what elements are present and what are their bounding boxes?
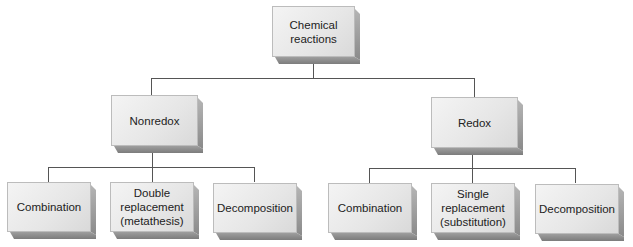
node-label: Combination <box>17 200 82 214</box>
node-redox: Redox <box>431 97 523 155</box>
node-label: Decomposition <box>217 201 293 215</box>
connector-root-down <box>313 63 314 79</box>
node-redox-combination: Combination <box>328 183 417 240</box>
connector-to-nonredox-decomposition <box>254 167 255 182</box>
connector-to-redox <box>474 78 475 97</box>
connector-to-single-replacement <box>472 168 473 183</box>
connector-to-redox-decomposition <box>575 168 576 183</box>
node-nonredox-decomposition: Decomposition <box>213 183 302 240</box>
node-chemical-reactions: Chemical reactions <box>272 6 360 64</box>
node-label: Nonredox <box>130 114 180 128</box>
node-single-replacement: Single replacement (substitution) <box>431 183 520 240</box>
connector-to-redox-combination <box>369 168 370 183</box>
node-label: Combination <box>338 201 403 215</box>
node-double-replacement: Double replacement (metathesis) <box>110 182 199 239</box>
node-label: Decomposition <box>539 202 615 216</box>
connector-to-double-replacement <box>152 167 153 182</box>
connector-nonredox-down <box>152 151 153 168</box>
node-redox-decomposition: Decomposition <box>535 184 624 241</box>
node-nonredox: Nonredox <box>111 95 203 153</box>
connector-to-nonredox <box>151 78 152 95</box>
node-label: Redox <box>458 116 491 130</box>
node-label: Single replacement (substitution) <box>440 187 506 229</box>
connector-redox-down <box>472 153 473 169</box>
node-label: Chemical reactions <box>290 18 338 46</box>
node-label: Double replacement (metathesis) <box>120 186 183 228</box>
connector-level1-horizontal <box>151 78 475 79</box>
connector-to-nonredox-combination <box>48 167 49 182</box>
node-nonredox-combination: Combination <box>7 182 96 239</box>
